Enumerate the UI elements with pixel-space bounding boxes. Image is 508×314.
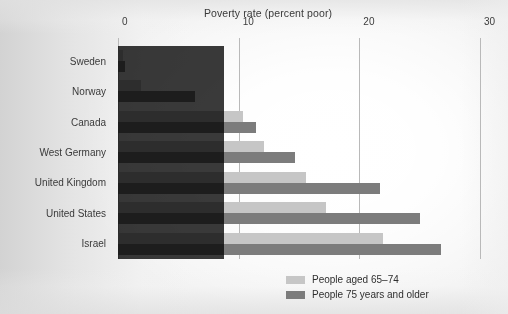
- category-label-text: Israel: [82, 238, 106, 249]
- category-label-text: Norway: [72, 86, 106, 97]
- legend-item: People 75 years and older: [286, 287, 429, 302]
- x-axis-tick-label: 20: [363, 16, 374, 27]
- category-label-text: United States: [46, 208, 106, 219]
- category-label-text: United Kingdom: [35, 177, 106, 188]
- x-axis-tick-label: 0: [122, 16, 128, 27]
- category-label-norway: Norway: [0, 76, 112, 106]
- legend-label: People aged 65–74: [312, 274, 399, 285]
- legend-swatch-icon: [286, 291, 305, 299]
- category-label-united-states: United States: [0, 198, 112, 228]
- gridline-30: [480, 38, 481, 259]
- x-axis-tick-label: 10: [243, 16, 254, 27]
- legend-item: People aged 65–74: [286, 272, 429, 287]
- category-label-west-germany: West Germany: [0, 137, 112, 167]
- category-label-text: Canada: [71, 117, 106, 128]
- legend-swatch-icon: [286, 276, 305, 284]
- dark-highlight-region: [118, 46, 224, 259]
- category-label-united-kingdom: United Kingdom: [0, 168, 112, 198]
- figure-vignette-bottom: [0, 268, 508, 314]
- category-label-text: Sweden: [70, 56, 106, 67]
- category-label-canada: Canada: [0, 107, 112, 137]
- category-label-sweden: Sweden: [0, 46, 112, 76]
- category-label-israel: Israel: [0, 229, 112, 259]
- chart-figure: Poverty rate (percent poor) SwedenNorway…: [0, 0, 508, 314]
- x-axis-tick-label: 30: [484, 16, 495, 27]
- category-label-text: West Germany: [40, 147, 107, 158]
- category-axis: SwedenNorwayCanadaWest GermanyUnited Kin…: [0, 46, 112, 259]
- legend-label: People 75 years and older: [312, 289, 429, 300]
- chart-title: Poverty rate (percent poor): [0, 7, 508, 19]
- chart-legend: People aged 65–74People 75 years and old…: [286, 272, 429, 302]
